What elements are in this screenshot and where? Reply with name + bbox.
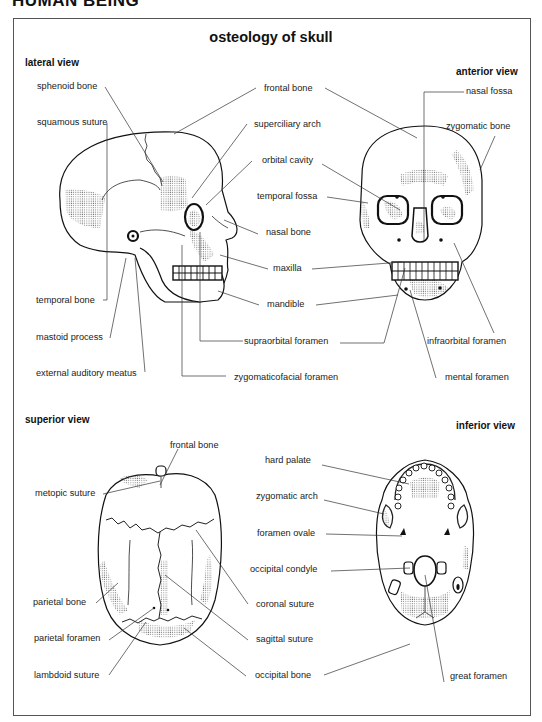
label-foramen-ovale: foramen ovale (257, 528, 315, 539)
label-superior-frontal-bone: frontal bone (170, 440, 219, 451)
label-nasal-fossa: nasal fossa (466, 86, 512, 97)
label-superciliary-arch: superciliary arch (254, 119, 321, 130)
label-parietal-bone: parietal bone (33, 597, 86, 608)
label-coronal-suture: coronal suture (256, 599, 314, 610)
label-occipital-bone: occipital bone (255, 670, 311, 681)
label-temporal-fossa: temporal fossa (257, 191, 317, 202)
label-mental-foramen: mental foramen (445, 372, 509, 383)
label-orbital-cavity: orbital cavity (262, 155, 313, 166)
label-external-auditory-meatus: external auditory meatus (36, 368, 137, 379)
label-frontal-bone: frontal bone (264, 83, 313, 94)
skull-illustrations (0, 0, 542, 722)
label-lambdoid-suture: lambdoid suture (34, 670, 99, 681)
label-nasal-bone: nasal bone (266, 227, 311, 238)
label-squamous-suture: squamous suture (37, 117, 107, 128)
label-supraorbital-foramen: supraorbital foramen (244, 336, 328, 347)
label-mandible: mandible (267, 299, 304, 310)
label-zygomatic-arch: zygomatic arch (256, 491, 318, 502)
label-occipital-condyle: occipital condyle (250, 564, 317, 575)
label-temporal-bone: temporal bone (36, 295, 95, 306)
label-great-foramen: great foramen (450, 671, 507, 682)
label-zygomatic-bone: zygomatic bone (446, 121, 510, 132)
label-zygomaticofacial-foramen: zygomaticofacial foramen (234, 372, 338, 383)
superior-skull-drawing (98, 466, 221, 645)
label-metopic-suture: metopic suture (35, 488, 95, 499)
inferior-skull-drawing (376, 460, 473, 625)
label-sphenoid-bone: sphenoid bone (37, 81, 97, 92)
label-parietal-foramen: parietal foramen (34, 633, 100, 644)
label-infraorbital-foramen: infraorbital foramen (427, 336, 506, 347)
label-sagittal-suture: sagittal suture (256, 634, 313, 645)
label-hard-palate: hard palate (265, 455, 311, 466)
anterior-skull-drawing (360, 126, 482, 300)
label-maxilla: maxilla (273, 263, 302, 274)
label-mastoid-process: mastoid process (36, 332, 103, 343)
